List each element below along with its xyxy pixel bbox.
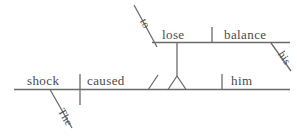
pedestal-left-leg <box>168 76 177 90</box>
direct-object-word: him <box>231 74 252 87</box>
object-complement-slant <box>148 75 158 90</box>
pedestal-right-leg <box>177 76 186 90</box>
sentence-diagram-canvas: shock caused him lose balance The to his <box>0 0 297 137</box>
infinitive-object-word: balance <box>224 28 267 41</box>
verb-word: caused <box>87 74 125 87</box>
infinitive-verb-word: lose <box>162 28 185 41</box>
subject-word: shock <box>27 74 59 87</box>
